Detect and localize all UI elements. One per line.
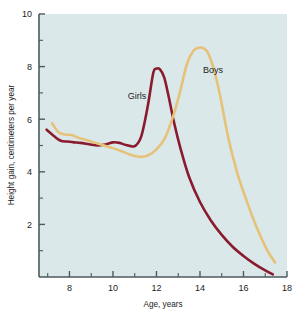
- y-tick-label: 2: [27, 220, 32, 230]
- x-tick-label: 10: [108, 283, 118, 293]
- x-tick-label: 8: [67, 283, 72, 293]
- y-axis-title: Height gain, centimeters per year: [7, 84, 16, 205]
- x-axis-tick-labels: 81012141618: [67, 283, 292, 293]
- figure-container: 246810 81012141618 GirlsBoys Height gain…: [0, 0, 297, 322]
- y-axis-tick-labels: 246810: [22, 9, 32, 229]
- plot-area-background: [39, 14, 287, 277]
- caption-strip: [0, 312, 297, 322]
- growth-velocity-chart: 246810 81012141618 GirlsBoys Height gain…: [0, 0, 297, 322]
- y-tick-label: 6: [27, 115, 32, 125]
- y-tick-label: 10: [22, 9, 32, 19]
- y-tick-label: 8: [27, 62, 32, 72]
- x-tick-label: 12: [151, 283, 161, 293]
- x-axis-title: Age, years: [143, 300, 182, 309]
- y-tick-label: 4: [27, 167, 32, 177]
- x-tick-label: 18: [282, 283, 292, 293]
- x-tick-label: 14: [195, 283, 205, 293]
- series-label-boys: Boys: [203, 65, 224, 75]
- series-label-girls: Girls: [128, 91, 147, 101]
- x-tick-label: 16: [238, 283, 248, 293]
